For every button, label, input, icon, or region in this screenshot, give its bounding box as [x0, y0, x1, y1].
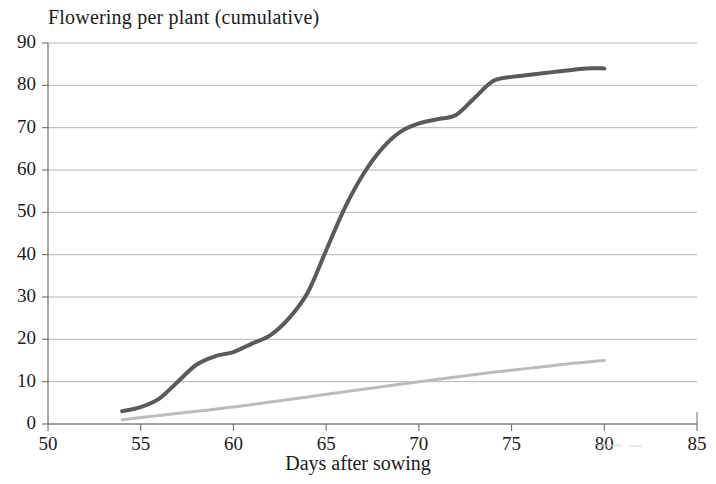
y-tick-label: 80 [0, 74, 36, 94]
scan-artifact [628, 445, 642, 447]
y-tick-label: 0 [0, 413, 36, 433]
series-line-cumulative-flowering-dark [122, 68, 604, 411]
y-tick-label: 90 [0, 32, 36, 52]
scan-artifact [600, 444, 622, 447]
axis-ticks-group [42, 43, 697, 431]
y-tick-label: 50 [0, 201, 36, 221]
chart-plot-area [0, 0, 716, 484]
data-series-group [122, 68, 604, 420]
y-tick-label: 60 [0, 159, 36, 179]
gridlines-group [48, 43, 697, 424]
chart-figure: Flowering per plant (cumulative) 9080706… [0, 0, 716, 484]
x-axis-title: Days after sowing [0, 451, 716, 475]
y-tick-label: 10 [0, 371, 36, 391]
y-tick-label: 30 [0, 286, 36, 306]
y-tick-label: 20 [0, 328, 36, 348]
y-tick-label: 40 [0, 244, 36, 264]
series-line-flowering-light [122, 361, 604, 420]
y-tick-label: 70 [0, 117, 36, 137]
axes-group [48, 43, 697, 424]
